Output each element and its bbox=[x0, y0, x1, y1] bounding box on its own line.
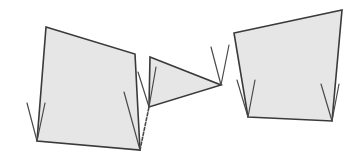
v-mark-arm bbox=[221, 45, 229, 85]
v-mark-arm bbox=[140, 107, 149, 150]
right-quadrilateral bbox=[234, 10, 342, 121]
v-mark-arm bbox=[211, 47, 221, 85]
diagram-canvas bbox=[0, 0, 358, 162]
middle-triangle bbox=[138, 45, 229, 107]
v-mark-arm bbox=[27, 103, 37, 141]
left-quadrilateral bbox=[27, 27, 149, 150]
v-mark-arm bbox=[138, 72, 149, 107]
polygon-diagram bbox=[0, 0, 358, 162]
middle-triangle-polygon bbox=[149, 57, 221, 107]
vertex-v-mark bbox=[211, 45, 229, 85]
left-quadrilateral-polygon bbox=[37, 27, 140, 150]
